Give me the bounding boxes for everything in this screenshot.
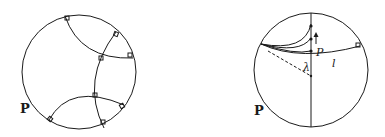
left-disk-boundary (22, 15, 136, 129)
arrow-head-icon (314, 32, 319, 37)
left-figure: P (20, 15, 136, 129)
right-angle-marker (113, 31, 118, 36)
right-figure: P l λ P (254, 13, 368, 127)
diagram-canvas: P P l λ P (0, 0, 385, 137)
left-figure-label: P (20, 101, 30, 116)
geodesic-arc-bottom (49, 96, 124, 120)
point-p-label: P (315, 46, 324, 59)
point-p (309, 49, 312, 52)
point-marker (309, 37, 312, 40)
right-angle-marker (128, 53, 132, 57)
line-l-label: l (332, 57, 336, 70)
right-figure-label: P (254, 103, 264, 118)
geodesic-curve (261, 24, 311, 46)
point-marker (309, 24, 312, 27)
point-marker (310, 75, 312, 77)
right-angle-marker (119, 103, 124, 108)
angle-lambda-label: λ (302, 61, 310, 74)
geodesic-arc-right (94, 32, 116, 128)
geodesic-arc-top (65, 16, 133, 58)
